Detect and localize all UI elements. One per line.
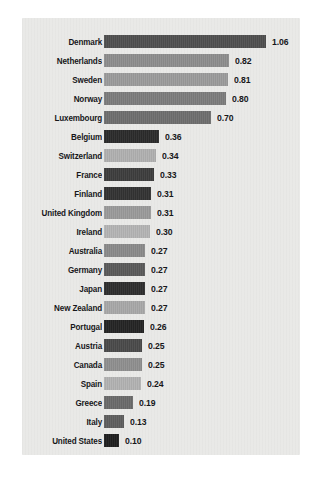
bar-row: Portugal0.26: [22, 317, 300, 336]
category-label: United Kingdom: [33, 203, 102, 222]
bar: [104, 73, 228, 86]
bar: [104, 396, 133, 409]
category-label: Ireland: [33, 222, 102, 241]
bar-value-label: 0.19: [139, 393, 155, 412]
bar-value-label: 0.33: [160, 165, 176, 184]
category-label: United States: [33, 431, 102, 450]
bar-value-label: 0.27: [151, 260, 167, 279]
bar: [104, 263, 145, 276]
category-label: Norway: [33, 89, 102, 108]
category-label: Greece: [33, 393, 102, 412]
bar-value-label: 0.31: [157, 184, 173, 203]
category-label: Sweden: [33, 70, 102, 89]
bar-row: Sweden0.81: [22, 70, 300, 89]
bar-row: Canada0.25: [22, 355, 300, 374]
category-label: France: [33, 165, 102, 184]
chart-panel: Denmark1.06Netherlands0.82Sweden0.81Norw…: [22, 18, 300, 455]
bar-value-label: 0.27: [151, 241, 167, 260]
bar-row: Denmark1.06: [22, 32, 300, 51]
bar-value-label: 0.27: [151, 298, 167, 317]
bar-value-label: 0.10: [125, 431, 141, 450]
bar: [104, 434, 119, 447]
bar-row: Spain0.24: [22, 374, 300, 393]
bar-row: Switzerland0.34: [22, 146, 300, 165]
bar-value-label: 0.36: [165, 127, 181, 146]
bar-value-label: 0.24: [147, 374, 163, 393]
bar-value-label: 0.82: [235, 51, 251, 70]
bar-rows: Denmark1.06Netherlands0.82Sweden0.81Norw…: [22, 18, 300, 455]
bar-row: New Zealand0.27: [22, 298, 300, 317]
bar-row: Belgium0.36: [22, 127, 300, 146]
category-label: Netherlands: [33, 51, 102, 70]
bar-row: Japan0.27: [22, 279, 300, 298]
bar: [104, 301, 145, 314]
bar-value-label: 0.34: [162, 146, 178, 165]
bar-row: United States0.10: [22, 431, 300, 450]
bar-value-label: 0.26: [150, 317, 166, 336]
bar: [104, 244, 145, 257]
bar: [104, 377, 141, 390]
category-label: Germany: [33, 260, 102, 279]
bar: [104, 320, 144, 333]
bar-value-label: 0.70: [217, 108, 233, 127]
bar-row: Australia0.27: [22, 241, 300, 260]
bar-value-label: 0.13: [130, 412, 146, 431]
category-label: Denmark: [33, 32, 102, 51]
category-label: Italy: [33, 412, 102, 431]
bar-value-label: 0.27: [151, 279, 167, 298]
bar: [104, 111, 211, 124]
bar-row: Greece0.19: [22, 393, 300, 412]
bar: [104, 206, 151, 219]
bar-value-label: 0.80: [232, 89, 248, 108]
bar-value-label: 0.25: [148, 336, 164, 355]
bar-row: United Kingdom0.31: [22, 203, 300, 222]
bar-value-label: 1.06: [272, 32, 288, 51]
bar-row: Italy0.13: [22, 412, 300, 431]
page-background: Denmark1.06Netherlands0.82Sweden0.81Norw…: [0, 0, 322, 480]
bar-row: Germany0.27: [22, 260, 300, 279]
bar-value-label: 0.81: [234, 70, 250, 89]
bar: [104, 92, 226, 105]
category-label: Canada: [33, 355, 102, 374]
bar: [104, 35, 266, 48]
category-label: Luxembourg: [33, 108, 102, 127]
bar-value-label: 0.30: [156, 222, 172, 241]
category-label: New Zealand: [33, 298, 102, 317]
bar: [104, 130, 159, 143]
bar: [104, 339, 142, 352]
category-label: Portugal: [33, 317, 102, 336]
bar-row: Ireland0.30: [22, 222, 300, 241]
category-label: Australia: [33, 241, 102, 260]
category-label: Japan: [33, 279, 102, 298]
bar: [104, 282, 145, 295]
bar: [104, 54, 229, 67]
category-label: Austria: [33, 336, 102, 355]
bar-value-label: 0.31: [157, 203, 173, 222]
bar-row: Finland0.31: [22, 184, 300, 203]
category-label: Belgium: [33, 127, 102, 146]
category-label: Spain: [33, 374, 102, 393]
category-label: Switzerland: [33, 146, 102, 165]
bar: [104, 149, 156, 162]
bar: [104, 358, 142, 371]
category-label: Finland: [33, 184, 102, 203]
bar-row: Netherlands0.82: [22, 51, 300, 70]
bar: [104, 168, 154, 181]
bar-row: Austria0.25: [22, 336, 300, 355]
bar-value-label: 0.25: [148, 355, 164, 374]
bar: [104, 187, 151, 200]
bar-row: France0.33: [22, 165, 300, 184]
bar-row: Luxembourg0.70: [22, 108, 300, 127]
bar-row: Norway0.80: [22, 89, 300, 108]
bar: [104, 225, 150, 238]
bar: [104, 415, 124, 428]
